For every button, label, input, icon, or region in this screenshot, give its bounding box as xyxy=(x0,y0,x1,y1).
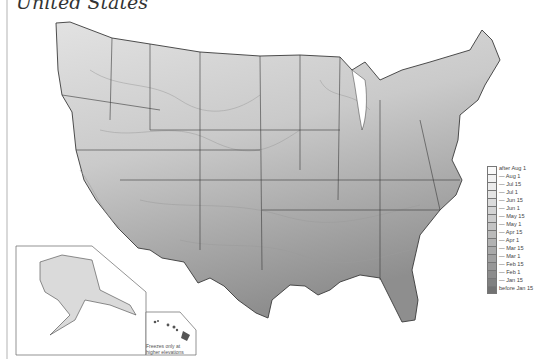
hawaii-note-line2: higher elevations xyxy=(146,350,206,356)
legend-label: — Feb 15 xyxy=(499,260,533,268)
legend-label: after Aug 1 xyxy=(499,164,533,172)
legend-label: — Jun 15 xyxy=(499,196,533,204)
legend-label: — Feb 1 xyxy=(499,268,533,276)
hawaii-note: Freezes only at higher elevations xyxy=(146,344,206,355)
legend-swatch xyxy=(487,246,497,254)
us-frost-map xyxy=(0,0,540,359)
legend-label: — May 1 xyxy=(499,220,533,228)
legend-swatch xyxy=(487,198,497,206)
legend-label: — Aug 1 xyxy=(499,172,533,180)
legend-label: — Jul 15 xyxy=(499,180,533,188)
legend-swatch xyxy=(487,222,497,230)
legend-swatch xyxy=(487,270,497,278)
legend-swatch xyxy=(487,214,497,222)
legend-label: — Jan 15 xyxy=(499,276,533,284)
legend-label: before Jan 15 xyxy=(499,284,533,292)
legend-swatch xyxy=(487,190,497,198)
legend-label: — Mar 1 xyxy=(499,252,533,260)
legend-swatch xyxy=(487,174,497,182)
legend-swatch xyxy=(487,262,497,270)
legend-swatch xyxy=(487,206,497,214)
legend-swatch xyxy=(487,230,497,238)
legend-swatches xyxy=(487,166,497,294)
legend-label: — Mar 15 xyxy=(499,244,533,252)
legend-swatch xyxy=(487,278,497,286)
legend-swatch xyxy=(487,238,497,246)
legend-swatch xyxy=(487,286,497,294)
legend-label: — Jun 1 xyxy=(499,204,533,212)
legend-swatch xyxy=(487,166,497,174)
frost-date-legend: after Aug 1 — Aug 1 — Jul 15 — Jul 1 — J… xyxy=(487,166,497,294)
legend-label: — Apr 15 xyxy=(499,228,533,236)
legend-swatch xyxy=(487,254,497,262)
legend-swatch xyxy=(487,182,497,190)
legend-label: — Apr 1 xyxy=(499,236,533,244)
alaska-inset xyxy=(16,246,146,355)
legend-label: — May 15 xyxy=(499,212,533,220)
legend-labels: after Aug 1 — Aug 1 — Jul 15 — Jul 1 — J… xyxy=(499,164,533,292)
legend-label: — Jul 1 xyxy=(499,188,533,196)
